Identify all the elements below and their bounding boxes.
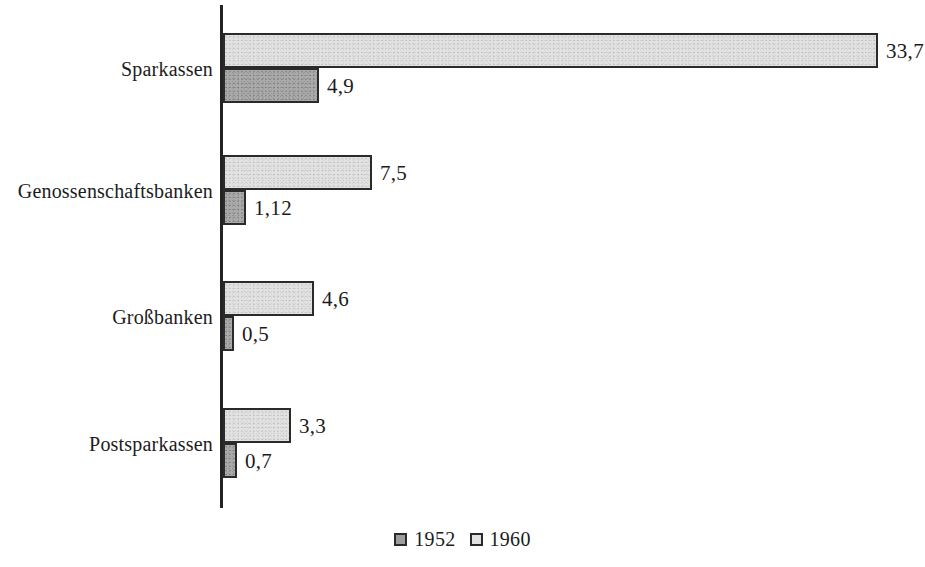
bar-value-genossenschaftsbanken-1952: 1,12 xyxy=(254,196,292,220)
bar-value-genossenschaftsbanken-1960: 7,5 xyxy=(380,161,407,185)
bar-value-grossbanken-1960: 4,6 xyxy=(322,287,349,311)
legend-label-1952: 1952 xyxy=(414,528,455,550)
legend-item-1960: 1960 xyxy=(470,528,531,550)
bar-sparkassen-1960 xyxy=(223,33,878,68)
bar-genossenschaftsbanken-1952 xyxy=(223,190,246,225)
bar-postsparkassen-1960 xyxy=(223,408,291,443)
chart-legend: 1952 1960 xyxy=(0,528,925,550)
category-label-genossenschaftsbanken: Genossenschaftsbanken xyxy=(0,179,213,203)
bar-grossbanken-1952 xyxy=(223,316,234,351)
bar-postsparkassen-1952 xyxy=(223,443,237,478)
legend-swatch-dark-gray-square-icon xyxy=(394,533,407,546)
bar-value-postsparkassen-1960: 3,3 xyxy=(299,414,326,438)
bar-value-postsparkassen-1952: 0,7 xyxy=(245,449,272,473)
bar-value-sparkassen-1960: 33,7 xyxy=(886,39,924,63)
legend-item-1952: 1952 xyxy=(394,528,455,550)
bar-chart-figure: Sparkassen 33,7 4,9 Genossenschaftsbanke… xyxy=(0,0,925,567)
bar-genossenschaftsbanken-1960 xyxy=(223,155,372,190)
legend-label-1960: 1960 xyxy=(490,528,531,550)
bar-sparkassen-1952 xyxy=(223,68,319,103)
legend-swatch-light-gray-square-icon xyxy=(470,533,483,546)
category-label-postsparkassen: Postsparkassen xyxy=(0,432,213,456)
bar-grossbanken-1960 xyxy=(223,281,314,316)
bar-value-sparkassen-1952: 4,9 xyxy=(327,74,354,98)
category-label-grossbanken: Großbanken xyxy=(0,305,213,329)
plot-area: Sparkassen 33,7 4,9 Genossenschaftsbanke… xyxy=(0,0,925,520)
bar-value-grossbanken-1952: 0,5 xyxy=(242,322,269,346)
category-label-sparkassen: Sparkassen xyxy=(0,57,213,81)
